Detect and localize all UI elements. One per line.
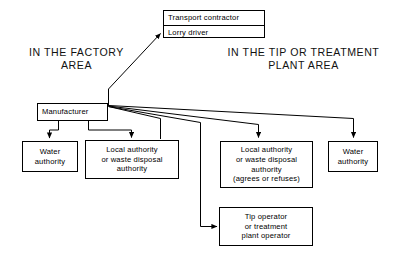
node-water-authority-left-line-1: Water	[40, 147, 61, 157]
edge-manufacturer-to-local-authority-right	[109, 106, 259, 138]
node-transport-contractor-label: Transport contractor	[164, 11, 264, 26]
node-water-authority-right-line-1: Water	[343, 147, 364, 157]
node-local-authority-right-line-2: or waste disposal	[236, 155, 297, 165]
node-water-authority-right[interactable]: Water authority	[328, 141, 378, 172]
edge-manufacturer-to-water-authority-left	[50, 121, 59, 139]
node-local-authority-left-line-2: or waste disposal	[101, 155, 162, 165]
node-water-authority-left[interactable]: Water authority	[22, 141, 78, 172]
node-local-authority-right[interactable]: Local authority or waste disposal author…	[220, 141, 313, 188]
node-transport-contractor[interactable]: Transport contractor Lorry driver	[163, 10, 265, 38]
node-local-authority-left-line-1: Local authority	[106, 145, 158, 155]
heading-factory-area-line-2: AREA	[14, 59, 139, 72]
flow-diagram: IN THE FACTORY AREA IN THE TIP OR TREATM…	[0, 0, 401, 256]
edge-hub-fan-1	[109, 107, 161, 140]
node-tip-operator-line-2: or treatment	[245, 222, 288, 232]
node-local-authority-left-line-3: authority	[117, 164, 147, 174]
heading-tip-or-treatment-plant-area: IN THE TIP OR TREATMENT PLANT AREA	[216, 46, 391, 72]
heading-factory-area: IN THE FACTORY AREA	[14, 46, 139, 72]
heading-tip-area-line-2: PLANT AREA	[216, 59, 391, 72]
node-local-authority-right-line-4: (agrees or refuses)	[233, 174, 300, 184]
node-local-authority-right-line-3: authority	[251, 165, 281, 175]
edge-manufacturer-to-water-authority-right	[109, 106, 354, 138]
node-tip-operator-line-3: plant operator	[242, 231, 291, 241]
node-lorry-driver-label: Lorry driver	[164, 26, 264, 40]
heading-tip-area-line-1: IN THE TIP OR TREATMENT	[216, 46, 391, 59]
node-manufacturer[interactable]: Manufacturer	[37, 103, 108, 121]
node-local-authority-left[interactable]: Local authority or waste disposal author…	[85, 140, 179, 179]
node-water-authority-left-line-2: authority	[35, 157, 65, 167]
node-manufacturer-label: Manufacturer	[38, 107, 89, 117]
node-local-authority-right-line-1: Local authority	[241, 145, 293, 155]
edge-manufacturer-to-local-authority-left	[89, 121, 132, 138]
heading-factory-area-line-1: IN THE FACTORY	[14, 46, 139, 59]
node-tip-operator[interactable]: Tip operator or treatment plant operator	[219, 207, 313, 246]
node-water-authority-right-line-2: authority	[338, 157, 368, 167]
node-tip-operator-line-1: Tip operator	[245, 212, 287, 222]
